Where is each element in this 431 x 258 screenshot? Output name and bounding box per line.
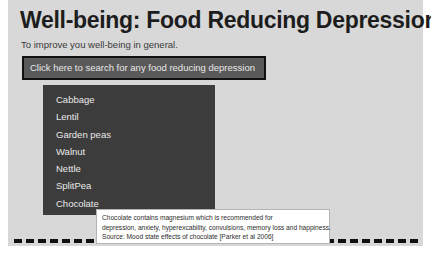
list-item[interactable]: Nettle	[43, 160, 215, 177]
tooltip-line-3: Source: Mood state effects of chocolate …	[102, 232, 324, 242]
search-food-button[interactable]: Click here to search for any food reduci…	[22, 56, 266, 80]
food-dropdown-list[interactable]: Cabbage Lentil Garden peas Walnut Nettle…	[43, 85, 215, 215]
list-item[interactable]: Lentil	[43, 108, 215, 125]
list-item[interactable]: Walnut	[43, 143, 215, 160]
tooltip-line-2: depression, anxiety, hyperexcability, co…	[102, 223, 324, 233]
page-title: Well-being: Food Reducing Depression	[20, 6, 430, 34]
app-root: Well-being: Food Reducing Depression To …	[0, 0, 431, 258]
chocolate-tooltip: Chocolate contains magnesium which is re…	[96, 209, 330, 244]
page-subtitle: To improve you well-being in general.	[21, 39, 178, 51]
list-item[interactable]: Garden peas	[43, 126, 215, 143]
list-item[interactable]: SplitPea	[43, 177, 215, 194]
list-item[interactable]: Cabbage	[43, 91, 215, 108]
tooltip-line-1: Chocolate contains magnesium which is re…	[102, 213, 324, 223]
